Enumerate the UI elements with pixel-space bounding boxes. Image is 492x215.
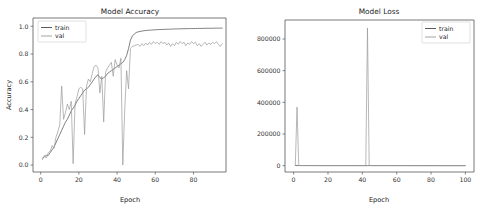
loss-x-axis-title: Epoch (369, 196, 389, 204)
y-tick-label: 400000 (257, 99, 281, 106)
y-tick-label: 0.6 (19, 78, 29, 85)
y-tick-label: 0.4 (19, 106, 29, 113)
chart-panel-model-accuracy: Model Accuracy 0.00.20.40.60.81.0 020406… (0, 0, 246, 215)
x-tick-label: 60 (151, 176, 159, 183)
y-tick-label: 0 (277, 162, 281, 169)
legend-label-val: val (55, 32, 64, 39)
loss-svg: Model Loss 0200000400000600000800000 020… (246, 0, 492, 215)
accuracy-svg: Model Accuracy 0.00.20.40.60.81.0 020406… (0, 0, 246, 215)
x-tick-label: 0 (292, 176, 296, 183)
accuracy-y-axis-title: Accuracy (5, 80, 13, 110)
y-tick-label: 0.2 (19, 134, 29, 141)
loss-legend[interactable]: train val (422, 22, 470, 43)
accuracy-x-axis-title: Epoch (120, 196, 140, 204)
accuracy-series-val (43, 42, 223, 165)
accuracy-series-train (43, 28, 223, 158)
figure-container: Model Accuracy 0.00.20.40.60.81.0 020406… (0, 0, 492, 215)
y-tick-label: 1.0 (19, 23, 29, 30)
accuracy-legend[interactable]: train val (38, 21, 86, 42)
loss-series-val (295, 28, 463, 166)
chart-title-accuracy: Model Accuracy (101, 7, 160, 16)
y-tick-label: 0.0 (19, 161, 29, 168)
x-tick-label: 100 (460, 176, 472, 183)
loss-x-axis-ticks: 020406080100 (292, 172, 472, 183)
accuracy-y-axis-ticks: 0.00.20.40.60.81.0 (19, 23, 33, 169)
x-tick-label: 20 (75, 176, 83, 183)
accuracy-x-axis-ticks: 020406080 (39, 172, 198, 183)
chart-title-loss: Model Loss (359, 7, 400, 16)
legend-label-train: train (55, 24, 69, 31)
y-tick-label: 600000 (257, 67, 281, 74)
x-tick-label: 0 (39, 176, 43, 183)
loss-y-axis-ticks: 0200000400000600000800000 (257, 35, 285, 169)
x-tick-label: 40 (358, 176, 366, 183)
y-tick-label: 200000 (257, 130, 281, 137)
legend-label-train: train (439, 25, 453, 32)
x-tick-label: 80 (190, 176, 198, 183)
x-tick-label: 40 (113, 176, 121, 183)
x-tick-label: 80 (427, 176, 435, 183)
legend-label-val: val (439, 33, 448, 40)
chart-panel-model-loss: Model Loss 0200000400000600000800000 020… (246, 0, 492, 215)
y-tick-label: 800000 (257, 35, 281, 42)
y-tick-label: 0.8 (19, 50, 29, 57)
x-tick-label: 20 (324, 176, 332, 183)
x-tick-label: 60 (393, 176, 401, 183)
